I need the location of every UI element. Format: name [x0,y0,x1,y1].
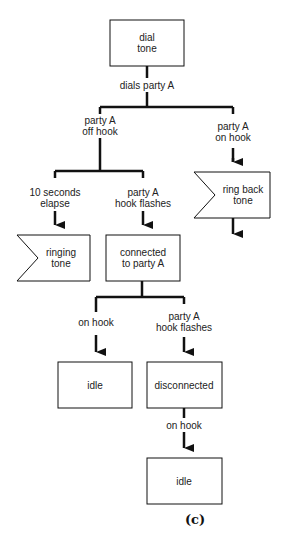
figure-caption: (c) [185,512,205,527]
connected-label: connected to party A [120,247,166,269]
dial-tone-line2: tone [137,43,156,54]
edge-label-10-seconds: 10 seconds elapse [29,187,80,209]
edge-label-hook-flashes-2-line1: party A [156,311,212,322]
idle-2-label: idle [176,476,192,487]
ringing-tone-label: ringing tone [46,247,76,269]
connected-line1: connected [120,247,166,258]
edge-label-10-seconds-line2: elapse [29,198,80,209]
dial-tone-label: dial tone [137,32,156,54]
ring-back-tone-line1: ring back [223,184,264,195]
ring-back-tone-label: ring back tone [223,184,264,206]
edge-label-off-hook-line2: off hook [82,126,117,137]
edge-label-10-seconds-line1: 10 seconds [29,187,80,198]
idle-1-label: idle [87,380,103,391]
dial-tone-line1: dial [137,32,156,43]
edge-label-hook-flashes-2: party A hook flashes [156,311,212,333]
edge-label-off-hook: party A off hook [82,115,117,137]
ring-back-tone-line2: tone [223,195,264,206]
connected-line2: to party A [120,258,166,269]
edge-label-on-hook-line1: party A [215,121,251,132]
edge-label-on-hook-3: on hook [166,420,202,431]
edge-label-on-hook-line2: on hook [215,132,251,143]
edge-label-dials-party-a: dials party A [120,80,174,91]
edge-label-hook-flashes-1-line1: party A [115,187,171,198]
disconnected-label: disconnected [155,380,214,391]
edge-label-on-hook: party A on hook [215,121,251,143]
edge-label-hook-flashes-1-line2: hook flashes [115,198,171,209]
edge-label-off-hook-line1: party A [82,115,117,126]
edge-label-on-hook-2: on hook [78,317,114,328]
ringing-tone-line2: tone [46,258,76,269]
edge-label-hook-flashes-2-line2: hook flashes [156,322,212,333]
ringing-tone-line1: ringing [46,247,76,258]
edge-label-hook-flashes-1: party A hook flashes [115,187,171,209]
